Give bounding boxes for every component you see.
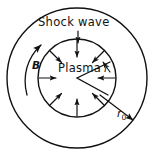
plasma-label: Plasma xyxy=(58,63,101,75)
shock-wave-label: Shock wave xyxy=(38,17,110,29)
inward-arrow-bottom-left xyxy=(50,94,62,106)
magnetic-field-label: B xyxy=(32,60,40,71)
shock-wave-plasma-diagram: Shock wave Plasma B r r0 xyxy=(0,0,154,161)
radius-initial-label: r0 xyxy=(117,108,126,122)
radius-initial-subscript: 0 xyxy=(122,113,127,122)
inward-arrow-bottom-right xyxy=(93,94,105,106)
radius-current-label: r xyxy=(104,63,109,74)
